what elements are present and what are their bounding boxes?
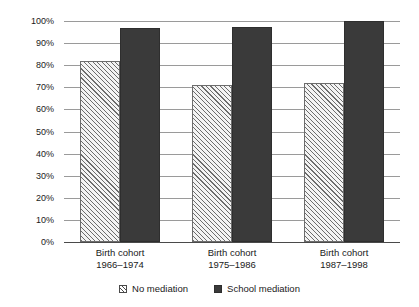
x-axis-label-line: Birth cohort: [288, 247, 400, 259]
y-axis-tick-label: 10%: [36, 215, 54, 224]
x-axis-label-line: 1987–1998: [288, 259, 400, 271]
x-axis-label-group-2: Birth cohort1975–1986: [176, 247, 288, 271]
plot-area: [64, 21, 400, 242]
legend-item-school-mediation[interactable]: School mediation: [214, 284, 300, 294]
x-axis-label-line: 1966–1974: [64, 259, 176, 271]
bar-no-mediation-group-3: [304, 83, 344, 242]
x-axis-category-labels: Birth cohort1966–1974Birth cohort1975–19…: [64, 247, 400, 281]
legend-label: School mediation: [227, 284, 300, 294]
y-axis-tick-label: 90%: [36, 39, 54, 48]
y-axis: 100%90%80%70%60%50%40%30%20%10%0%: [0, 21, 58, 242]
x-axis-label-group-3: Birth cohort1987–1998: [288, 247, 400, 271]
legend-item-no-mediation[interactable]: No mediation: [119, 284, 188, 294]
y-axis-tick-label: 70%: [36, 83, 54, 92]
filled-square-icon: [214, 285, 222, 293]
y-axis-tick-label: 100%: [31, 17, 54, 26]
bar-school-mediation-group-1: [120, 28, 160, 242]
bar-no-mediation-group-2: [192, 85, 232, 242]
y-axis-tick-label: 80%: [36, 61, 54, 70]
x-axis-label-group-1: Birth cohort1966–1974: [64, 247, 176, 271]
x-axis-label-line: 1975–1986: [176, 259, 288, 271]
axis-baseline: [64, 242, 400, 243]
y-axis-tick-label: 40%: [36, 149, 54, 158]
y-axis-tick-label: 20%: [36, 193, 54, 202]
chart-legend: No mediationSchool mediation: [0, 284, 419, 294]
x-axis-label-line: Birth cohort: [64, 247, 176, 259]
legend-label: No mediation: [132, 284, 188, 294]
y-axis-tick-label: 0%: [41, 238, 54, 247]
y-axis-tick-label: 50%: [36, 127, 54, 136]
x-axis-label-line: Birth cohort: [176, 247, 288, 259]
bar-chart: 100%90%80%70%60%50%40%30%20%10%0% Birth …: [0, 0, 419, 307]
hatched-square-icon: [119, 285, 127, 293]
y-axis-tick-label: 30%: [36, 171, 54, 180]
y-axis-tick-label: 60%: [36, 105, 54, 114]
bar-no-mediation-group-1: [80, 61, 120, 242]
bar-school-mediation-group-3: [344, 21, 384, 242]
bar-school-mediation-group-2: [232, 27, 272, 242]
